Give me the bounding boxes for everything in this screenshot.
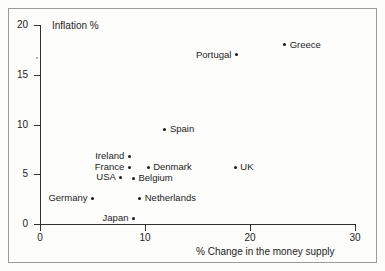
y-axis-line [40, 25, 41, 225]
y-tick-mark [34, 25, 40, 26]
x-axis-line [40, 224, 356, 225]
data-point-label: Denmark [153, 162, 192, 172]
y-tick-label: 15 [2, 70, 28, 80]
data-point[interactable] [91, 197, 94, 200]
y-tick-mark [34, 174, 40, 175]
y-tick-label: 5 [2, 169, 28, 179]
y-tick-mark [34, 75, 40, 76]
x-tick-label: 30 [340, 233, 370, 243]
y-tick-mark [34, 125, 40, 126]
data-point-label: Netherlands [145, 193, 196, 203]
x-axis-label: % Change in the money supply [196, 246, 334, 257]
data-point[interactable] [128, 155, 131, 158]
x-tick-mark [40, 225, 41, 231]
x-tick-mark [145, 225, 146, 231]
x-tick-label: 10 [130, 233, 160, 243]
scatter-chart-figure: Inflation % % Change in the money supply… [0, 0, 385, 271]
x-tick-mark [250, 225, 251, 231]
data-point-label: USA [96, 172, 116, 182]
data-point-label: UK [240, 162, 253, 172]
data-point[interactable] [234, 166, 237, 169]
data-point-label: Japan [103, 213, 129, 223]
data-point-label: Greece [290, 40, 321, 50]
data-point-label: Portugal [196, 50, 231, 60]
data-point[interactable] [128, 166, 131, 169]
x-tick-label: 20 [235, 233, 265, 243]
stray-mark [36, 57, 38, 59]
data-point[interactable] [147, 166, 150, 169]
data-point-label: Ireland [95, 151, 124, 161]
x-tick-label: 0 [25, 233, 55, 243]
data-point-label: Spain [170, 124, 194, 134]
y-tick-label: 0 [2, 219, 28, 229]
data-point-label: Germany [48, 193, 87, 203]
x-tick-mark [355, 225, 356, 231]
y-tick-label: 10 [2, 120, 28, 130]
y-tick-label: 20 [2, 20, 28, 30]
data-point-label: Belgium [138, 173, 172, 183]
data-point[interactable] [138, 197, 141, 200]
y-axis-label: Inflation % [52, 20, 99, 31]
data-point[interactable] [132, 217, 135, 220]
data-point[interactable] [132, 177, 135, 180]
